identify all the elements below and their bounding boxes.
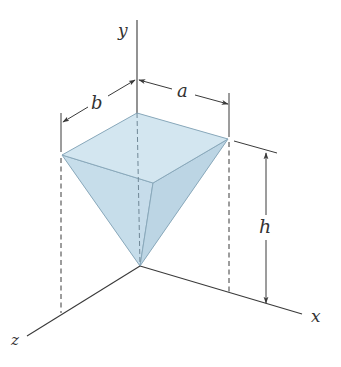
z-axis-label: z	[10, 331, 19, 349]
a-arrow-left	[139, 80, 172, 89]
y-axis-label: y	[117, 20, 128, 40]
dimension-label-h: h	[259, 215, 271, 237]
b-arrow-left	[63, 107, 88, 122]
pyramid-diagram: y x z b a h	[0, 0, 341, 367]
dimension-label-a: a	[177, 80, 188, 101]
pyramid	[62, 113, 228, 266]
x-axis-label: x	[311, 306, 321, 326]
b-arrow-right	[108, 80, 135, 96]
z-axis	[27, 266, 140, 336]
dimension-label-b: b	[91, 92, 103, 113]
h-extension-top	[234, 141, 277, 153]
x-axis	[140, 266, 302, 314]
a-arrow-right	[195, 95, 228, 104]
